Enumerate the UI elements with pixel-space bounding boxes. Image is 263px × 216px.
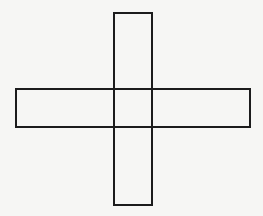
vertical-rectangle: [114, 13, 152, 205]
diagram-canvas: [0, 0, 263, 216]
horizontal-rectangle: [16, 89, 250, 127]
cross-diagram: [0, 0, 263, 216]
